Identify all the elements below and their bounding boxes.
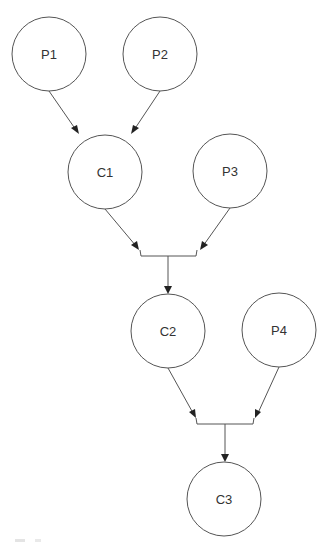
edge-p1-c1 xyxy=(49,91,79,134)
flow-diagram: P1 P2 C1 P3 C2 P4 C3 xyxy=(0,0,328,544)
node-c3[interactable]: C3 xyxy=(187,462,261,536)
node-label: C3 xyxy=(216,492,233,507)
arrowhead-icon xyxy=(255,409,261,418)
node-label: P1 xyxy=(41,47,57,62)
node-label: P3 xyxy=(222,164,238,179)
junction-2 xyxy=(168,367,279,462)
node-label: P2 xyxy=(152,47,168,62)
node-p3[interactable]: P3 xyxy=(193,134,267,208)
arrowhead-icon xyxy=(164,286,172,294)
node-p4[interactable]: P4 xyxy=(242,293,316,367)
node-c1[interactable]: C1 xyxy=(68,135,142,209)
arrowhead-icon xyxy=(71,125,79,134)
node-label: P4 xyxy=(271,323,287,338)
arrowhead-icon xyxy=(221,454,229,462)
node-label: C1 xyxy=(97,165,114,180)
node-p1[interactable]: P1 xyxy=(12,17,86,91)
node-p2[interactable]: P2 xyxy=(123,17,197,91)
junction-1 xyxy=(105,208,230,294)
arrowhead-icon xyxy=(131,125,139,134)
node-c2[interactable]: C2 xyxy=(131,294,205,368)
node-label: C2 xyxy=(160,324,177,339)
edge-p2-c1 xyxy=(131,91,160,134)
arrowhead-icon xyxy=(189,409,196,418)
arrowhead-icon xyxy=(200,241,208,250)
arrowhead-icon xyxy=(131,241,139,250)
cropped-caption-fragment xyxy=(15,539,75,542)
